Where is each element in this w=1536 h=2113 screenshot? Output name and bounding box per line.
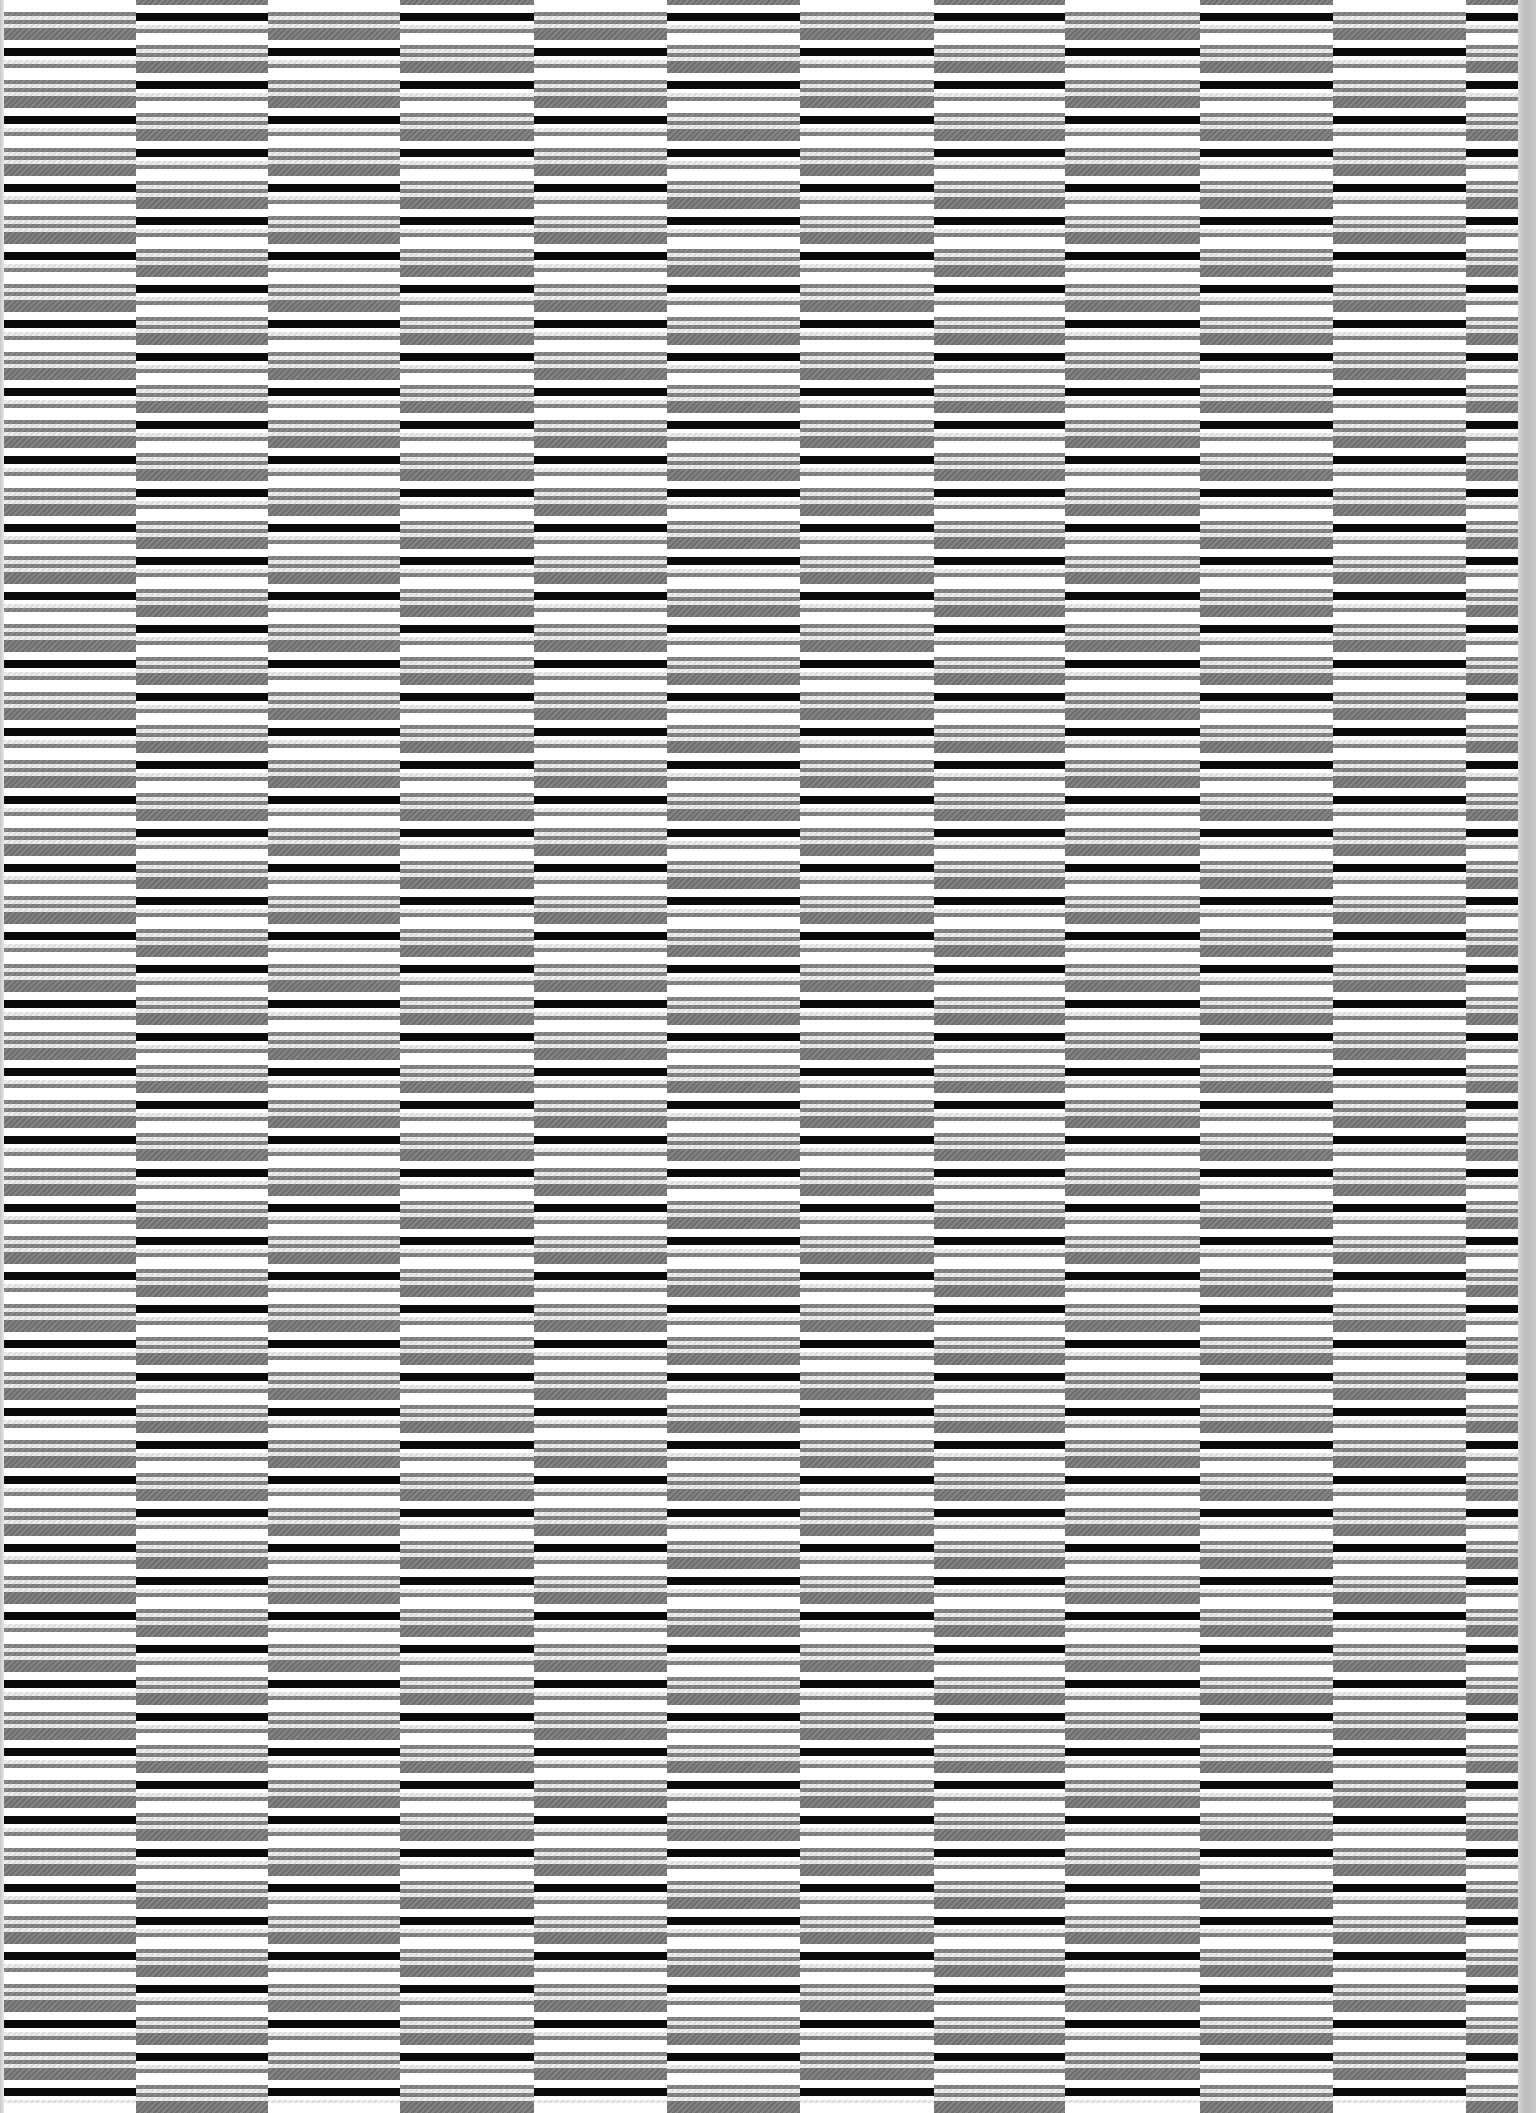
stripe-band-black <box>1200 1649 1333 1653</box>
stripe-band-black <box>667 1037 800 1041</box>
stripe-band-dark <box>667 945 800 957</box>
stripe-band-light <box>800 2100 934 2103</box>
stripe-band-black <box>1065 596 1200 600</box>
stripe-column <box>934 0 1065 2113</box>
stripe-band-black <box>667 1581 800 1585</box>
stripe-band-dark <box>1200 1489 1333 1501</box>
stripe-band-dark <box>1466 673 1518 685</box>
stripe-band-dark <box>4 28 136 40</box>
stripe-band-grey <box>800 948 934 952</box>
stripe-band-dark <box>800 2068 934 2080</box>
stripe-band-dark <box>934 401 1065 413</box>
stripe-band-dark <box>400 1829 534 1841</box>
stripe-band-black <box>934 1513 1065 1517</box>
stripe-band-grey <box>136 709 268 713</box>
stripe-band-grey <box>534 200 667 204</box>
stripe-band-dark <box>1200 197 1333 209</box>
stripe-band-dark <box>934 265 1065 277</box>
stripe-band-dark <box>667 1285 800 1297</box>
stripe-band-dark <box>1065 436 1200 448</box>
stripe-band-black <box>934 493 1065 497</box>
stripe-band-grey <box>534 1968 667 1972</box>
stripe-band-black <box>1200 629 1333 633</box>
stripe-band-grey <box>934 709 1065 713</box>
stripe-band-grey <box>800 1424 934 1428</box>
stripe-band-black <box>136 1105 268 1109</box>
stripe-band-black <box>800 1616 934 1620</box>
stripe-band-grey <box>1333 744 1466 748</box>
stripe-band-black <box>1333 1072 1466 1076</box>
stripe-band-black <box>934 765 1065 769</box>
stripe-band-grey <box>1333 268 1466 272</box>
stripe-band-dark <box>400 1625 534 1637</box>
stripe-band-grey <box>136 573 268 577</box>
stripe-band-dark <box>534 1252 667 1264</box>
stripe-band-dark <box>1466 1217 1518 1229</box>
stripe-band-grey <box>1466 1185 1518 1189</box>
stripe-band-black <box>534 1616 667 1620</box>
stripe-band-dark <box>934 1557 1065 1569</box>
stripe-band-black <box>667 1377 800 1381</box>
stripe-band-grey <box>534 1288 667 1292</box>
stripe-band-grey <box>1466 505 1518 509</box>
stripe-band-grey <box>800 200 934 204</box>
stripe-band-dark <box>1466 1353 1518 1365</box>
stripe-band-dark <box>667 333 800 345</box>
stripe-band-black <box>1200 901 1333 905</box>
stripe-band-black <box>1333 664 1466 668</box>
stripe-band-black <box>800 52 934 56</box>
stripe-band-black <box>136 17 268 21</box>
stripe-band-dark <box>1200 333 1333 345</box>
stripe-band-grey <box>268 64 400 68</box>
stripe-band-black <box>1065 868 1200 872</box>
stripe-band-grey <box>136 1661 268 1665</box>
stripe-band-black <box>268 2092 400 2096</box>
stripe-band-black <box>934 1173 1065 1177</box>
stripe-band-black <box>1200 2057 1333 2061</box>
stripe-band-black <box>534 2024 667 2028</box>
stripe-band-grey <box>400 845 534 849</box>
stripe-band-grey <box>934 2001 1065 2005</box>
stripe-band-black <box>136 1513 268 1517</box>
stripe-band-grey <box>1065 608 1200 612</box>
stripe-band-black <box>1466 289 1518 293</box>
stripe-band-dark <box>136 1557 268 1569</box>
stripe-band-black <box>268 1820 400 1824</box>
stripe-band-black <box>400 289 534 293</box>
stripe-band-dark <box>1200 741 1333 753</box>
stripe-band-dark <box>667 265 800 277</box>
stripe-band-dark <box>934 1693 1065 1705</box>
stripe-column <box>1065 0 1200 2103</box>
stripe-band-grey <box>4 1220 136 1224</box>
stripe-band-grey <box>667 1525 800 1529</box>
stripe-band-black <box>268 1208 400 1212</box>
stripe-band-grey <box>667 1933 800 1937</box>
stripe-band-grey <box>4 1628 136 1632</box>
stripe-band-black <box>1333 1276 1466 1280</box>
stripe-band-black <box>4 1888 136 1892</box>
stripe-band-dark <box>4 2068 136 2080</box>
stripe-band-black <box>4 1004 136 1008</box>
stripe-band-dark <box>1466 1081 1518 1093</box>
stripe-band-grey <box>534 1016 667 1020</box>
stripe-band-grey <box>400 1389 534 1393</box>
stripe-band-dark <box>4 1864 136 1876</box>
stripe-band-dark <box>1200 1081 1333 1093</box>
stripe-band-grey <box>534 1084 667 1088</box>
stripe-band-black <box>667 425 800 429</box>
stripe-band-dark <box>268 1184 400 1196</box>
stripe-band-black <box>1466 1581 1518 1585</box>
stripe-band-dark <box>268 912 400 924</box>
stripe-band-grey <box>400 1049 534 1053</box>
stripe-band-black <box>400 1785 534 1789</box>
stripe-band-black <box>800 392 934 396</box>
stripe-band-dark <box>268 1932 400 1944</box>
stripe-band-dark <box>400 1897 534 1909</box>
stripe-band-black <box>667 1513 800 1517</box>
stripe-band-grey <box>400 1729 534 1733</box>
stripe-band-grey <box>400 437 534 441</box>
stripe-band-dark <box>1200 1285 1333 1297</box>
stripe-band-black <box>667 1853 800 1857</box>
stripe-band-black <box>800 256 934 260</box>
stripe-band-dark <box>4 232 136 244</box>
